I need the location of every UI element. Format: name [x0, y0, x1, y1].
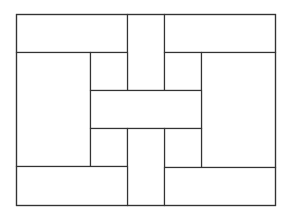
bottom-left-bar-rect [17, 167, 128, 206]
bottom-right-bar-rect [165, 168, 276, 206]
center-bar-rect [91, 91, 202, 129]
top-left-bar-rect [17, 15, 128, 53]
lower-left-square-rect [91, 129, 128, 167]
lower-right-square-rect [165, 129, 202, 168]
basket-weave-diagram [0, 0, 288, 216]
right-tall-rect [202, 53, 276, 168]
top-right-bar-rect [165, 15, 276, 53]
left-tall-rect [17, 53, 91, 167]
bottom-center-strip-rect [128, 129, 165, 206]
upper-left-square-rect [91, 53, 128, 91]
upper-right-square-rect [165, 53, 202, 91]
top-center-strip-rect [128, 15, 165, 91]
